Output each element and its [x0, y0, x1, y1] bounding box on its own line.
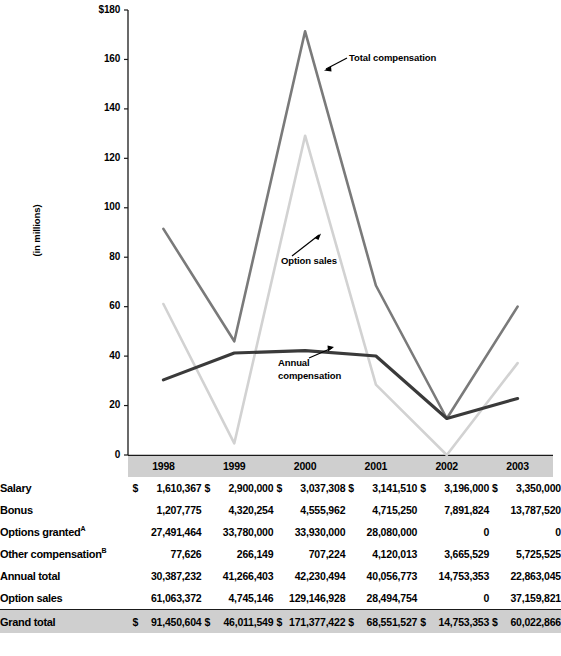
table-cell: 40,056,773: [345, 565, 417, 587]
currency-symbol: $: [420, 482, 426, 494]
compensation-figure: (in millions) 020406080100120140160$180: [0, 0, 561, 656]
row-label: Salary: [0, 477, 130, 499]
table-cell: $3,141,510: [345, 477, 417, 499]
year-header-cell: 2003: [482, 456, 553, 477]
table-cell: 37,159,821: [489, 587, 561, 610]
year-header-cell: 2001: [340, 456, 411, 477]
footnote-marker: B: [102, 547, 107, 554]
table-cell: 77,626: [130, 543, 202, 565]
table-cell: 61,063,372: [130, 587, 202, 610]
table-cell: 27,491,464: [130, 521, 202, 543]
table-cell: $2,900,000: [202, 477, 274, 499]
table-cell: 41,266,403: [202, 565, 274, 587]
year-header-cell: 1998: [128, 456, 199, 477]
compensation-table-wrapper: Salary$1,610,367$2,900,000$3,037,308$3,1…: [0, 477, 561, 656]
table-cell: $171,377,422: [273, 610, 345, 634]
table-row: Bonus1,207,7754,320,2544,555,9624,715,25…: [0, 499, 561, 521]
table-cell: 0: [417, 587, 489, 610]
footnote-marker: A: [80, 525, 85, 532]
table-cell: $91,450,604: [130, 610, 202, 634]
currency-symbol: $: [276, 482, 282, 494]
table-cell: 30,387,232: [130, 565, 202, 587]
annotation-annual-compensation: Annual compensation: [278, 357, 341, 382]
row-label: Other compensationB: [0, 543, 130, 565]
currency-symbol: $: [348, 616, 354, 628]
year-header-cell: 2002: [411, 456, 482, 477]
table-cell: $3,037,308: [273, 477, 345, 499]
table-cell: 4,555,962: [273, 499, 345, 521]
row-label: Option sales: [0, 587, 130, 610]
table-cell: 0: [489, 521, 561, 543]
table-cell: 33,780,000: [202, 521, 274, 543]
table-cell: 28,494,754: [345, 587, 417, 610]
table-cell: 4,715,250: [345, 499, 417, 521]
table-cell: 14,753,353: [417, 565, 489, 587]
table-row: Option sales61,063,3724,745,146129,146,9…: [0, 587, 561, 610]
table-cell: 3,665,529: [417, 543, 489, 565]
chart-series: [163, 31, 517, 455]
table-row: Options grantedA27,491,46433,780,00033,9…: [0, 521, 561, 543]
compensation-table: Salary$1,610,367$2,900,000$3,037,308$3,1…: [0, 477, 561, 633]
table-cell: 13,787,520: [489, 499, 561, 521]
currency-symbol: $: [205, 616, 211, 628]
annotation-option-sales: Option sales: [281, 255, 337, 268]
currency-symbol: $: [420, 616, 426, 628]
table-cell: $68,551,527: [345, 610, 417, 634]
table-row: Annual total30,387,23241,266,40342,230,4…: [0, 565, 561, 587]
footnote-clipped: [96, 648, 556, 656]
currency-symbol: $: [492, 482, 498, 494]
chart-canvas: [0, 0, 561, 470]
table-cell: $14,753,353: [417, 610, 489, 634]
series-line: [163, 136, 517, 455]
table-cell: 707,224: [273, 543, 345, 565]
table-cell: 266,149: [202, 543, 274, 565]
annotation-total-compensation: Total compensation: [349, 52, 436, 65]
row-label: Bonus: [0, 499, 130, 521]
currency-symbol: $: [205, 482, 211, 494]
table-cell: 22,863,045: [489, 565, 561, 587]
table-cell: 4,320,254: [202, 499, 274, 521]
table-row: Salary$1,610,367$2,900,000$3,037,308$3,1…: [0, 477, 561, 499]
table-cell: 42,230,494: [273, 565, 345, 587]
line-chart: (in millions) 020406080100120140160$180: [0, 0, 561, 470]
table-cell: 0: [417, 521, 489, 543]
table-row: Other compensationB77,626266,149707,2244…: [0, 543, 561, 565]
currency-symbol: $: [133, 482, 139, 494]
table-cell: 4,120,013: [345, 543, 417, 565]
table-cell: 5,725,525: [489, 543, 561, 565]
row-label: Grand total: [0, 610, 130, 634]
year-header-cell: 1999: [199, 456, 270, 477]
annotation-arrows: [292, 58, 347, 358]
table-cell: 129,146,928: [273, 587, 345, 610]
table-cell: $3,350,000: [489, 477, 561, 499]
chart-axes: [124, 10, 553, 456]
table-cell: 33,930,000: [273, 521, 345, 543]
table-cell: 1,207,775: [130, 499, 202, 521]
table-row-grand-total: Grand total$91,450,604$46,011,549$171,37…: [0, 610, 561, 634]
table-cell: $3,196,000: [417, 477, 489, 499]
currency-symbol: $: [276, 616, 282, 628]
table-cell: $1,610,367: [130, 477, 202, 499]
currency-symbol: $: [492, 616, 498, 628]
currency-symbol: $: [348, 482, 354, 494]
x-axis-year-header: 199819992000200120022003: [128, 456, 553, 477]
row-label: Options grantedA: [0, 521, 130, 543]
year-header-cell: 2000: [270, 456, 341, 477]
table-cell: $60,022,866: [489, 610, 561, 634]
table-cell: $46,011,549: [202, 610, 274, 634]
table-cell: 28,080,000: [345, 521, 417, 543]
currency-symbol: $: [133, 616, 139, 628]
table-cell: 4,745,146: [202, 587, 274, 610]
table-cell: 7,891,824: [417, 499, 489, 521]
row-label: Annual total: [0, 565, 130, 587]
